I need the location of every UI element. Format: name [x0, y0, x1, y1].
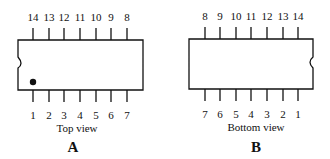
pin-label: 1	[30, 109, 36, 121]
view-caption: Top view	[56, 122, 97, 134]
view-a: 14 13 12 11 10 9 8 1 2 3 4 5 6 7 Top vie…	[18, 11, 143, 155]
dip-pinout-diagram: 14 13 12 11 10 9 8 1 2 3 4 5 6 7 Top vie…	[0, 0, 330, 159]
pin-label: 14	[293, 10, 305, 22]
pin1-dot-icon	[30, 79, 36, 85]
pin-label: 3	[264, 108, 270, 120]
pin-label: 6	[217, 108, 223, 120]
view-letter: A	[68, 139, 79, 155]
view-b-bottom-pins	[205, 89, 298, 101]
pin-label: 1	[295, 108, 301, 120]
ic-body	[18, 40, 143, 90]
pin-label: 14	[28, 11, 40, 23]
pin-label: 9	[108, 11, 114, 23]
pin-label: 5	[93, 109, 99, 121]
view-b: 8 9 10 11 12 13 14 7 6 5 4 3 2 1 Bottom …	[189, 10, 313, 155]
pin-label: 5	[233, 108, 239, 120]
view-a-bottom-pins	[33, 90, 127, 102]
view-letter: B	[251, 139, 261, 155]
pin-label: 13	[278, 10, 290, 22]
pin-label: 2	[280, 108, 286, 120]
pin-label: 3	[61, 109, 67, 121]
pin-label: 8	[124, 11, 130, 23]
pin-label: 11	[246, 10, 257, 22]
ic-body	[189, 39, 313, 89]
pin-label: 2	[46, 109, 52, 121]
pin-label: 7	[202, 108, 208, 120]
pin-label: 6	[108, 109, 114, 121]
pin-label: 12	[262, 10, 273, 22]
pin-label: 10	[91, 11, 103, 23]
view-a-top-pins	[33, 28, 127, 40]
pin-label: 4	[248, 108, 254, 120]
pin-label: 9	[217, 10, 223, 22]
pin-label: 4	[77, 109, 83, 121]
pin-label: 13	[44, 11, 56, 23]
pin-label: 8	[202, 10, 208, 22]
pin-label: 10	[231, 10, 243, 22]
pin-label: 12	[59, 11, 70, 23]
pin-label: 11	[75, 11, 86, 23]
view-b-top-pins	[205, 27, 298, 39]
view-caption: Bottom view	[227, 121, 284, 133]
pin-label: 7	[124, 109, 130, 121]
